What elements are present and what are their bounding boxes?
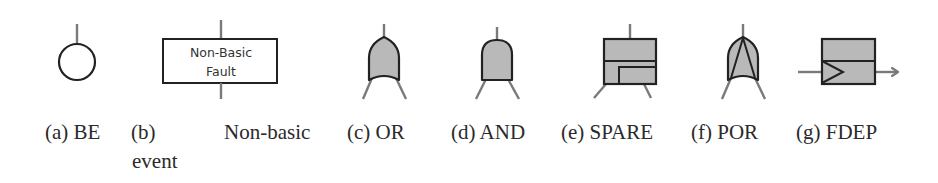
and-input-connector-left [476,79,486,99]
caption-label: SPARE [590,120,653,144]
basic-event-symbol [59,24,95,80]
caption-label: Non-basic [224,120,310,144]
spare-input-connector-left [594,84,606,98]
or-input-connector-right [396,78,406,99]
por-input-connector-left [722,78,731,99]
caption-b-tag: (b) [131,120,156,144]
fdep-gate-icon [822,39,875,84]
caption-tag: (e) [561,120,584,144]
caption-d: (d) AND [451,120,525,144]
caption-b-label-line2: event [132,149,177,173]
caption-tag: (f) [691,120,712,144]
non-basic-event-symbol: Non-Basic Fault [163,20,277,99]
por-gate-icon [728,37,758,80]
caption-f: (f) POR [691,120,758,144]
box-text-line2: Fault [206,64,236,79]
fdep-gate-symbol [798,39,898,84]
spare-gate-icon [604,39,656,84]
caption-label: AND [480,120,526,144]
caption-tag: (c) [347,120,370,144]
caption-e: (e) SPARE [561,120,653,144]
caption-a: (a) BE [45,120,100,144]
or-gate-icon [369,37,399,80]
caption-g: (g) FDEP [796,120,877,144]
caption-label-line2: event [132,149,177,173]
caption-label: FDEP [826,120,877,144]
caption-tag: (g) [796,120,821,144]
caption-label: OR [376,120,405,144]
por-gate-symbol [722,24,765,99]
or-input-connector-left [363,78,372,99]
and-gate-symbol [476,27,519,99]
and-gate-icon [482,40,512,80]
fault-tree-gate-legend: Non-Basic Fault [0,0,938,183]
caption-label: BE [74,120,101,144]
circle-icon [59,44,95,80]
caption-b-label: Non-basic [224,120,310,144]
or-gate-symbol [363,24,406,99]
caption-label: POR [717,120,758,144]
caption-tag: (b) [131,120,156,144]
caption-c: (c) OR [347,120,405,144]
caption-tag: (a) [45,120,68,144]
spare-input-connector-right [644,84,651,98]
spare-gate-symbol [594,24,656,98]
box-text-line1: Non-Basic [190,45,252,60]
and-input-connector-right [508,79,519,99]
caption-tag: (d) [451,120,476,144]
por-input-connector-right [755,78,765,99]
